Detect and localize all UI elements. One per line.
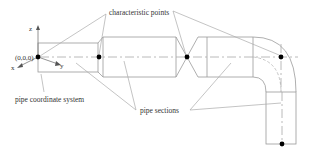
pipe-coordinate-system: z y x (0,0,0) xyxy=(11,25,64,72)
pipe-section-4 xyxy=(266,92,296,144)
coordinate-system-leader xyxy=(41,74,44,92)
pipe-diagram: z y x (0,0,0) characteristic points pipe… xyxy=(0,0,314,154)
pipe-coordinate-system-label: pipe coordinate system xyxy=(15,95,84,104)
point-valve xyxy=(185,55,190,60)
origin-label: (0,0,0) xyxy=(15,54,34,62)
pipe-elbow xyxy=(253,37,296,92)
axis-z-label: z xyxy=(29,25,32,33)
point-origin xyxy=(36,55,41,60)
pipe-sections-leaders xyxy=(76,61,281,110)
point-reducer xyxy=(97,55,102,60)
pipe-sections-label: pipe sections xyxy=(140,106,179,115)
characteristic-points-label: characteristic points xyxy=(109,8,169,17)
characteristic-points-leaders xyxy=(40,11,279,56)
pipe-section-1 xyxy=(38,43,98,72)
axis-y-label: y xyxy=(60,62,64,70)
axis-x-label: x xyxy=(11,64,15,72)
point-end xyxy=(280,142,285,147)
point-elbow xyxy=(279,55,284,60)
